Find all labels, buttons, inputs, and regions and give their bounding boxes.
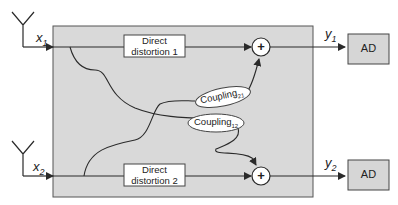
summer-1-plus: + (256, 39, 266, 54)
output-y2-label: y2 (325, 155, 337, 173)
ad-1-label: AD (348, 42, 389, 54)
direct-distortion-1-text: Direct distortion 1 (124, 35, 185, 57)
diagram-canvas: x1 x2 y1 y2 Direct distortion 1 Direct d… (0, 0, 398, 205)
direct-distortion-2-line2: distortion 2 (124, 175, 185, 186)
direct-distortion-2-text: Direct distortion 2 (124, 164, 185, 186)
y2-subscript: 2 (332, 163, 337, 173)
coupling-12-text: Coupling (194, 116, 232, 127)
direct-distortion-2-line1: Direct (124, 164, 185, 175)
y1-subscript: 1 (332, 34, 337, 44)
x2-subscript: 2 (40, 167, 45, 177)
summer-2-plus: + (256, 168, 266, 183)
x1-subscript: 1 (43, 38, 48, 48)
input-x1-label: x1 (36, 30, 48, 48)
antenna-1-icon (12, 12, 34, 47)
direct-distortion-1-line2: distortion 1 (124, 46, 185, 57)
ad-2-label: AD (348, 168, 389, 180)
antenna-2-icon (12, 141, 34, 176)
diagram-graphics (0, 0, 398, 205)
coupling-12-label: Coupling12 (194, 116, 238, 129)
output-y1-label: y1 (325, 26, 337, 44)
input-x2-label: x2 (33, 159, 45, 177)
coupling-12-subscript: 12 (232, 123, 239, 129)
direct-distortion-1-line1: Direct (124, 35, 185, 46)
